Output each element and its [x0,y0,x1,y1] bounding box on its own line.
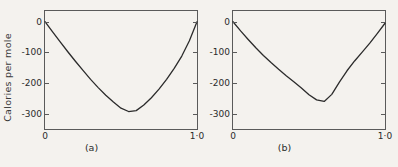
y-tick-label: -200 [22,78,45,88]
plot-area-a: 0-100-200-30001·0 [44,10,198,130]
y-tick-mark-left [233,52,237,53]
y-tick-mark-right [193,52,197,53]
plot-area-b: 0-100-200-30001·0 [232,10,386,130]
y-tick-mark-right [381,52,385,53]
y-tick-mark-right [193,83,197,84]
y-tick-mark-left [45,114,49,115]
y-tick-mark-right [381,83,385,84]
x-tick-label: 0 [42,131,48,141]
y-tick-label: 0 [224,17,233,27]
y-tick-mark-left [233,114,237,115]
y-tick-mark-right [381,114,385,115]
x-tick-label: 1·0 [378,131,392,141]
y-tick-mark-left [233,22,237,23]
y-tick-label: -200 [210,78,233,88]
y-tick-label: -100 [22,47,45,57]
y-tick-mark-right [381,22,385,23]
y-tick-mark-right [193,22,197,23]
y-tick-mark-left [233,83,237,84]
panel-caption-a: (a) [0,142,191,153]
y-tick-mark-left [45,22,49,23]
curve-b [233,11,385,129]
x-tick-label: 0 [230,131,236,141]
y-tick-label: -300 [22,109,45,119]
curve-a [45,11,197,129]
y-tick-label: -300 [210,109,233,119]
panel-caption-b: (b) [185,142,384,153]
y-tick-mark-right [193,114,197,115]
figure-two-panel-chart: Calories per mole 0-100-200-30001·0 (a) … [0,0,398,167]
y-tick-label: -100 [210,47,233,57]
y-tick-mark-left [45,83,49,84]
y-tick-mark-left [45,52,49,53]
y-tick-label: 0 [36,17,45,27]
chart-panel-b: 0-100-200-30001·0 (b) [199,0,398,167]
chart-panel-a: 0-100-200-30001·0 (a) [0,0,199,167]
